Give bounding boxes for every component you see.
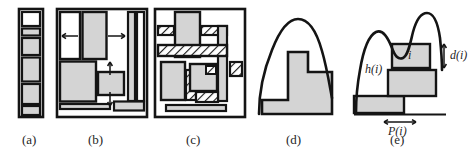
panel-a-segment-1: [22, 12, 40, 26]
panel-a-segment-3: [22, 38, 40, 55]
panel-b-block-rightsliver-1: [128, 12, 135, 101]
panel-e-block-middle: [388, 70, 436, 96]
panel-c: [155, 9, 245, 117]
panel-b-block-bottombar: [60, 104, 110, 109]
panel-b-block-midleft: [60, 62, 96, 102]
panel-c-block-rightsliver: [218, 26, 227, 101]
panel-b-block-topcenter: [83, 12, 107, 59]
caption-b: (b): [88, 132, 103, 148]
panel-c-hatch-band: [158, 45, 227, 56]
panel-b-block-rightsliver-2: [137, 12, 144, 101]
caption-a: (a): [22, 132, 36, 148]
panel-a-segment-6: [22, 106, 40, 115]
panel-b-block-bottomright: [114, 102, 144, 111]
panel-b-block-center: [98, 72, 124, 95]
label-d-of-i: d(i): [450, 48, 467, 63]
panel-c-hatch-rightedge: [230, 62, 242, 76]
panel-c-hatch-small: [206, 66, 216, 74]
panel-a-segment-4: [22, 58, 40, 82]
panel-a-segment-2: [22, 29, 40, 36]
panel-c-hatch-left-1: [158, 26, 174, 35]
panel-a-segment-5: [22, 84, 40, 104]
panel-e-block-bottom: [354, 96, 404, 113]
panel-c-block-midleft: [161, 62, 185, 100]
caption-c: (c): [186, 132, 200, 148]
panel-a: [19, 9, 43, 117]
panel-c-hatch-lower: [196, 92, 218, 102]
caption-d: (d): [286, 132, 301, 148]
panel-c-block-bottombar: [166, 105, 226, 111]
panel-b: [57, 9, 147, 117]
label-h-of-i: h(i): [365, 62, 382, 77]
caption-e: (e): [390, 132, 404, 148]
label-item-i: i: [408, 48, 411, 63]
